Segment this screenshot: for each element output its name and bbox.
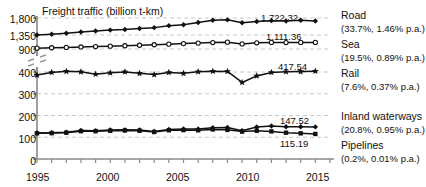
y-tick-1800: 1,800 (0, 14, 36, 25)
value-label-pipelines: 115.19 (280, 139, 308, 149)
value-label-rail: 417.54 (278, 62, 307, 72)
legend-sub-pipelines: (0.2%, 0.01% p.a.) (341, 154, 420, 164)
x-tick-1995: 1995 (26, 172, 49, 183)
x-tick-2000: 2000 (96, 172, 119, 183)
y-tick-0: 0 (0, 156, 36, 167)
value-label-inland-waterways: 147.52 (280, 116, 309, 126)
legend-sub-road: (33.7%, 1.46% p.a.) (341, 24, 425, 34)
legend-label-inland-waterways: Inland waterways (341, 111, 422, 122)
legend-sub-sea: (19.5%, 0.89% p.a.) (341, 53, 425, 63)
x-tick-2005: 2005 (166, 172, 189, 183)
legend-label-rail: Rail (341, 68, 359, 79)
y-tick-300: 300 (0, 90, 36, 101)
legend-label-pipelines: Pipelines (341, 140, 384, 151)
value-label-sea: 1,111.36 (266, 32, 302, 42)
y-tick-400: 400 (0, 68, 36, 79)
chart-title: Freight traffic (billion t-km) (42, 6, 163, 17)
value-label-road: 1,722.32 (261, 13, 298, 23)
legend-label-road: Road (341, 10, 366, 21)
legend-sub-rail: (7.6%, 0.37% p.a.) (341, 82, 420, 92)
freight-traffic-chart: Freight traffic (billion t-km) 1,800 1,3… (0, 0, 426, 187)
y-tick-100: 100 (0, 134, 36, 145)
x-tick-2010: 2010 (236, 172, 259, 183)
y-tick-1350: 1,350 (0, 31, 36, 42)
legend-sub-inland-waterways: (20.8%, 0.95% p.a.) (341, 125, 425, 135)
y-tick-900: 900 (0, 45, 36, 56)
y-tick-200: 200 (0, 112, 36, 123)
legend-label-sea: Sea (341, 39, 360, 50)
x-tick-2015: 2015 (306, 172, 329, 183)
